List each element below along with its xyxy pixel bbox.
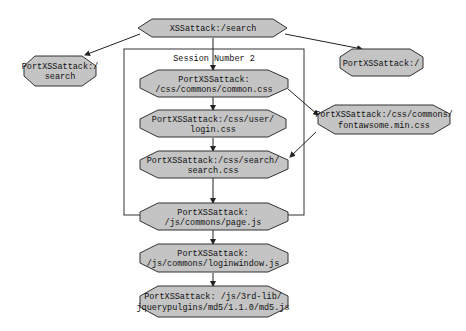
node-login-css: PortXSSattack:/css/user/ login.css <box>140 110 286 137</box>
flow-diagram: Session Number 2 XSSattack:/search PortX… <box>0 0 466 331</box>
session-label: Session Number 2 <box>173 54 255 64</box>
node-common-css: PortXSSattack: /css/commons/common.css <box>140 70 288 97</box>
svg-text:PortXSSattack:/: PortXSSattack:/ <box>22 62 99 72</box>
node-page-js: PortXSSattack: /js/commons/page.js <box>140 203 288 230</box>
node-fontawesome-css: PortXSSattack:/css/commons/ fontawsome.m… <box>315 105 453 134</box>
svg-text:/js/commons/page.js: /js/commons/page.js <box>165 218 262 228</box>
svg-text:PortXSSattack:: PortXSSattack: <box>178 75 249 85</box>
svg-text:PortXSSattack:/: PortXSSattack:/ <box>343 59 420 69</box>
svg-text:PortXSSattack:: PortXSSattack: <box>177 208 248 218</box>
svg-text:PortXSSattack:/css/search/: PortXSSattack:/css/search/ <box>147 156 280 166</box>
node-search-css: PortXSSattack:/css/search/ search.css <box>140 151 288 178</box>
node-root: XSSattack:/search <box>138 19 287 37</box>
svg-text:fontawsome.min.css: fontawsome.min.css <box>338 121 430 131</box>
node-md5-js: PortXSSattack: /js/3rd-lib/ jquerypulgin… <box>136 286 289 317</box>
svg-text:PortXSSattack:/css/commons/: PortXSSattack:/css/commons/ <box>315 110 453 120</box>
svg-text:search: search <box>45 72 76 82</box>
svg-text:jquerypulgins/md5/1.1.0/md5.js: jquerypulgins/md5/1.1.0/md5.js <box>136 303 289 313</box>
svg-text:/css/commons/common.css: /css/commons/common.css <box>155 85 272 95</box>
svg-text:XSSattack:/search: XSSattack:/search <box>170 24 257 34</box>
svg-text:PortXSSattack: /js/3rd-lib/: PortXSSattack: /js/3rd-lib/ <box>144 292 282 302</box>
node-loginwindow-js: PortXSSattack: /js/commons/loginwindow.j… <box>140 244 288 272</box>
svg-text:/js/commons/loginwindow.js: /js/commons/loginwindow.js <box>147 259 280 269</box>
svg-text:PortXSSattack:/css/user/: PortXSSattack:/css/user/ <box>152 115 274 125</box>
node-port-root: PortXSSattack:/ <box>340 49 423 76</box>
svg-text:login.css: login.css <box>190 125 236 135</box>
svg-text:PortXSSattack:: PortXSSattack: <box>177 249 248 259</box>
svg-text:search.css: search.css <box>187 166 238 176</box>
node-port-search: PortXSSattack:/ search <box>22 56 99 86</box>
